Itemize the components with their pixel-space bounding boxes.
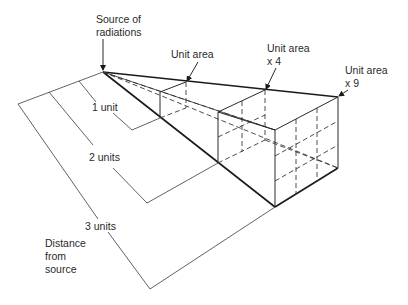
dimension-baseline (18, 72, 103, 104)
svg-text:Distance: Distance (45, 237, 86, 249)
distance-caption: Distance from source (45, 237, 86, 275)
unit-area-x9-label: Unit area (345, 64, 388, 76)
top-ray (103, 72, 338, 97)
unit-area-x4-square (218, 90, 265, 163)
distance-1-label: 1 unit (92, 101, 118, 113)
svg-text:source: source (45, 263, 77, 275)
unit-area-x9-arrow-icon (339, 90, 348, 96)
inverse-square-diagram: Source of radiations Unit are (0, 0, 408, 305)
unit-area-x9-square (218, 97, 338, 207)
front-ray (103, 72, 275, 207)
svg-text:Source of: Source of (96, 13, 141, 25)
svg-text:radiations: radiations (96, 26, 142, 38)
source-label: Source of radiations (96, 13, 142, 38)
distance-2-label: 2 units (89, 151, 120, 163)
distance-3-label: 3 units (85, 220, 116, 232)
unit-area-label: Unit area (171, 48, 214, 60)
svg-text:from: from (45, 250, 66, 262)
unit-area-x4-label: Unit area (267, 42, 310, 54)
unit-area-x4-multiplier: x 4 (267, 55, 281, 67)
back-bottom-ray (103, 72, 338, 168)
unit-area-x4-arrow-icon (266, 68, 276, 89)
unit-area-x9-multiplier: x 9 (345, 77, 359, 89)
unit-area-square (160, 82, 186, 118)
unit-area-arrow-icon (187, 62, 198, 81)
